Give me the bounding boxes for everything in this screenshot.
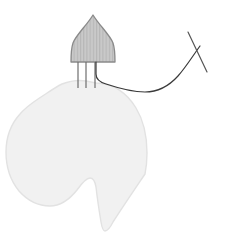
illustration-canvas: Line-art illustration of a dome-shaped s… [0,0,226,232]
figure-svg [0,0,226,232]
